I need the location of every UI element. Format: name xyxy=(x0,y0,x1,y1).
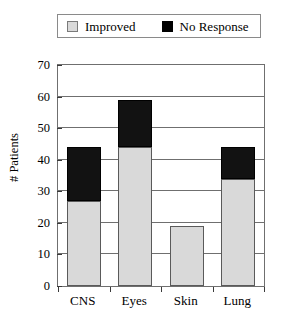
y-axis-tick-labels: 010203040506070 xyxy=(22,64,50,287)
chart-legend: Improved No Response xyxy=(57,14,261,38)
y-axis-tick-mark xyxy=(57,160,62,161)
bar-segment-improved xyxy=(170,226,204,286)
bar-segment-no-response xyxy=(221,147,255,179)
bar-segment-improved xyxy=(221,179,255,286)
y-axis-tick-mark xyxy=(57,65,62,66)
y-axis-tick-label: 0 xyxy=(24,280,50,293)
x-axis-tick-mark xyxy=(213,287,214,292)
y-axis-tick-mark xyxy=(57,128,62,129)
legend-item-improved: Improved xyxy=(67,20,136,33)
legend-swatch-improved-icon xyxy=(67,21,78,32)
bar-segment-no-response xyxy=(118,100,152,147)
y-axis-tick-label: 50 xyxy=(24,122,50,135)
y-axis-tick-mark xyxy=(57,223,62,224)
y-axis-tick-mark xyxy=(57,97,62,98)
bar-segment-improved xyxy=(118,147,152,286)
legend-swatch-no-response-icon xyxy=(162,21,173,32)
y-axis-tick-label: 20 xyxy=(24,217,50,230)
y-axis-tick-mark xyxy=(57,286,62,287)
x-axis-tick-label-lung: Lung xyxy=(207,294,267,307)
y-axis-tick-label: 40 xyxy=(24,153,50,166)
y-axis-title: # Patients xyxy=(7,113,22,203)
y-axis-tick-label: 30 xyxy=(24,185,50,198)
x-axis-tick-mark xyxy=(110,287,111,292)
bar-chart: Improved No Response # Patients 01020304… xyxy=(0,0,284,327)
y-axis-tick-mark xyxy=(57,191,62,192)
x-axis-tick-labels: CNSEyesSkinLung xyxy=(57,294,265,314)
legend-item-no-response: No Response xyxy=(162,20,249,33)
x-axis-tick-mark xyxy=(264,287,265,292)
bar-segment-improved xyxy=(67,201,101,286)
bar-segment-no-response xyxy=(67,147,101,201)
y-axis-tick-label: 60 xyxy=(24,90,50,103)
legend-label-no-response: No Response xyxy=(180,20,249,33)
x-axis-tick-mark xyxy=(161,287,162,292)
bar-series-container xyxy=(58,65,264,286)
y-axis-tick-label: 70 xyxy=(24,59,50,72)
legend-label-improved: Improved xyxy=(85,20,136,33)
y-axis-tick-label: 10 xyxy=(24,248,50,261)
y-axis-tick-mark xyxy=(57,254,62,255)
x-axis-tick-mark xyxy=(58,287,59,292)
